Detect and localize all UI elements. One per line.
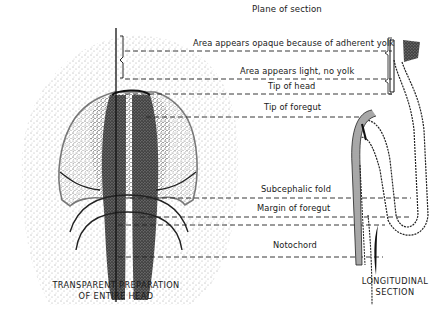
label-notochord: Notochord [273,240,317,250]
label-margin-of-foregut: Margin of foregut [257,203,330,213]
label-subcephalic-fold: Subcephalic fold [261,184,331,194]
plane-of-section-label: Plane of section [252,4,322,14]
label-light-area: Area appears light, no yolk [240,66,354,76]
label-tip-of-head: Tip of head [268,81,315,91]
caption-right-line2: SECTION [350,287,440,298]
caption-right-line1: LONGITUDINAL [350,276,440,287]
label-opaque-area: Area appears opaque because of adherent … [193,38,394,48]
caption-left-line1: TRANSPARENT PREPARATION [36,280,196,291]
caption-longitudinal-section: LONGITUDINAL SECTION [350,276,440,298]
label-tip-of-foregut: Tip of foregut [264,102,321,112]
caption-transparent-preparation: TRANSPARENT PREPARATION OF ENTIRE HEAD [36,280,196,302]
longitudinal-section [352,38,428,305]
caption-left-line2: OF ENTIRE HEAD [36,291,196,302]
